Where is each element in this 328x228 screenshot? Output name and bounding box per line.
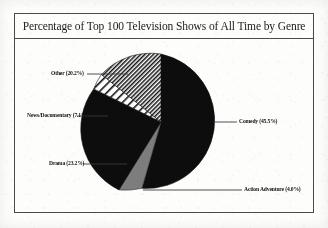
pie-label-comedy: Comedy (45.5%) (239, 118, 277, 124)
pie-label-other: Other (20.2%) (51, 70, 84, 76)
pie-label-drama: Drama (23.2%) (49, 160, 84, 166)
pie-label-news-documentary: News/Documentary (7.1%) (27, 112, 88, 118)
plot-area: Other (20.2%) News/Documentary (7.1%) Dr… (15, 39, 313, 213)
chart-title: Percentage of Top 100 Television Shows o… (23, 20, 306, 32)
scanned-page-background: Percentage of Top 100 Television Shows o… (0, 0, 328, 228)
pie-label-action-adventure: Action Adventure (4.0%) (244, 186, 301, 192)
chart-frame: Percentage of Top 100 Television Shows o… (14, 13, 314, 213)
chart-title-band: Percentage of Top 100 Television Shows o… (15, 14, 313, 39)
